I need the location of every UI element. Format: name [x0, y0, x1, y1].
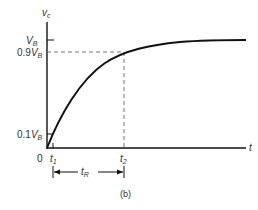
tr-arrowhead-right — [117, 170, 123, 175]
t1-label: t1 — [50, 153, 57, 165]
t2-label: t2 — [120, 153, 127, 165]
ninety-percent-vb-label: 0.9VB — [17, 47, 43, 59]
x-axis-label: t — [249, 142, 253, 153]
figure-caption: (b) — [120, 189, 131, 199]
tr-arrowhead-left — [54, 170, 60, 175]
origin-label: 0 — [37, 153, 43, 164]
ten-percent-vb-label: 0.1VB — [17, 129, 43, 141]
charging-curve — [47, 40, 246, 148]
rise-time-diagram: vc VB 0.9VB 0.1VB 0 t1 t2 t tR (b) — [0, 0, 258, 210]
rise-time-label: tR — [81, 166, 89, 178]
y-axis-label: vc — [42, 7, 51, 19]
vb-label: VB — [26, 35, 38, 47]
